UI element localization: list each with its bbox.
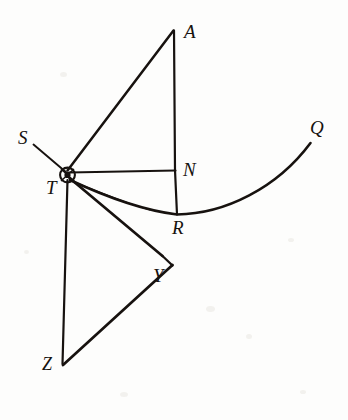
- segment-T-A: [68, 31, 174, 171]
- segment-A-N: [174, 31, 175, 171]
- point-label-Q: Q: [310, 118, 324, 137]
- point-label-T: T: [46, 178, 57, 197]
- point-label-Y: Y: [153, 266, 164, 285]
- point-label-A: A: [184, 22, 196, 41]
- figure-canvas: A S Q N T R Y Z: [0, 0, 348, 420]
- segment-T-Z: [63, 180, 68, 364]
- segment-T-N: [69, 171, 176, 173]
- point-label-S: S: [18, 128, 28, 147]
- diagram-svg: [0, 0, 348, 420]
- point-label-N: N: [183, 160, 196, 179]
- point-label-Z: Z: [42, 355, 52, 373]
- segment-N-R: [175, 170, 177, 215]
- right-angle-tick-at-Y: [163, 256, 173, 266]
- segment-T-Y: [70, 178, 163, 256]
- point-label-R: R: [172, 218, 184, 237]
